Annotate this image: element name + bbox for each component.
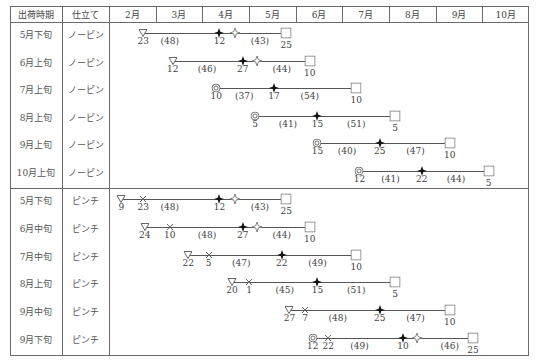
days-interval-label: (47) bbox=[232, 258, 250, 268]
days-interval-label: (48) bbox=[160, 36, 178, 46]
date-label: 22 bbox=[276, 258, 287, 268]
header-month: 6月 bbox=[296, 7, 343, 23]
days-interval-label: (44) bbox=[272, 230, 290, 240]
days-interval-label: (40) bbox=[338, 146, 356, 156]
date-label: 25 bbox=[467, 345, 478, 355]
date-label: 25 bbox=[281, 206, 292, 216]
date-label: 1 bbox=[246, 285, 252, 295]
shipping-period: 10月上旬 bbox=[10, 166, 62, 179]
date-label: 10 bbox=[304, 234, 315, 244]
date-label: 7 bbox=[302, 313, 308, 323]
date-label: 27 bbox=[237, 230, 248, 240]
date-label: 5 bbox=[486, 178, 492, 188]
date-label: 10 bbox=[351, 95, 362, 105]
date-label: 10 bbox=[351, 262, 362, 272]
col-divider bbox=[109, 6, 110, 356]
date-label: 10 bbox=[164, 230, 175, 240]
date-label: 24 bbox=[139, 230, 150, 240]
date-label: 25 bbox=[374, 313, 385, 323]
training-type: ピンチ bbox=[62, 277, 109, 290]
training-type: ピンチ bbox=[62, 333, 109, 346]
shipping-square-icon bbox=[304, 221, 315, 232]
training-type: ノーピン bbox=[62, 83, 109, 96]
days-interval-label: (43) bbox=[251, 36, 269, 46]
days-interval-label: (41) bbox=[279, 119, 297, 129]
training-type: ノーピン bbox=[62, 138, 109, 151]
days-interval-label: (51) bbox=[347, 119, 365, 129]
date-label: 15 bbox=[312, 119, 323, 129]
days-interval-label: (37) bbox=[235, 91, 253, 101]
header-month: 8月 bbox=[389, 7, 436, 23]
shipping-period: 5月下旬 bbox=[10, 28, 62, 41]
timeline-bar bbox=[188, 255, 356, 256]
date-label: 22 bbox=[183, 258, 194, 268]
training-type: ノーピン bbox=[62, 111, 109, 124]
timeline-bar bbox=[289, 310, 449, 311]
header-month: 7月 bbox=[342, 7, 389, 23]
header-month: 2月 bbox=[109, 7, 156, 23]
days-interval-label: (45) bbox=[276, 285, 294, 295]
bloom-open-flower-icon bbox=[252, 222, 262, 232]
shipping-square-icon bbox=[351, 83, 362, 94]
shipping-period: 6月中旬 bbox=[10, 222, 62, 235]
shipping-period: 8月上旬 bbox=[10, 277, 62, 290]
days-interval-label: (46) bbox=[198, 64, 216, 74]
header-month: 3月 bbox=[156, 7, 203, 23]
date-label: 23 bbox=[137, 202, 148, 212]
training-type: ピンチ bbox=[62, 305, 109, 318]
shipping-square-icon bbox=[444, 138, 455, 149]
training-type: ノーピン bbox=[62, 56, 109, 69]
date-label: 22 bbox=[416, 174, 427, 184]
timeline-bar bbox=[255, 116, 395, 117]
bloom-open-flower-icon bbox=[230, 28, 240, 38]
days-interval-label: (49) bbox=[308, 258, 326, 268]
date-label: 10 bbox=[397, 341, 408, 351]
date-label: 12 bbox=[167, 64, 178, 74]
shipping-square-icon bbox=[351, 249, 362, 260]
timeline-bar bbox=[216, 88, 356, 89]
date-label: 10 bbox=[304, 68, 315, 78]
days-interval-label: (48) bbox=[198, 230, 216, 240]
bloom-open-flower-icon bbox=[412, 333, 422, 343]
shipping-period: 9月中旬 bbox=[10, 305, 62, 318]
shipping-square-icon bbox=[304, 55, 315, 66]
days-interval-label: (44) bbox=[272, 64, 290, 74]
training-type: ノーピン bbox=[62, 28, 109, 41]
bloom-open-flower-icon bbox=[252, 56, 262, 66]
shipping-period: 6月上旬 bbox=[10, 56, 62, 69]
date-label: 5 bbox=[206, 258, 212, 268]
training-type: ピンチ bbox=[62, 250, 109, 263]
shipping-square-icon bbox=[281, 194, 292, 205]
header-period: 出荷時期 bbox=[10, 7, 62, 23]
header-month: 9月 bbox=[436, 7, 483, 23]
timeline-bar bbox=[313, 338, 473, 339]
date-label: 25 bbox=[374, 146, 385, 156]
date-label: 12 bbox=[354, 174, 365, 184]
training-type: ピンチ bbox=[62, 222, 109, 235]
days-interval-label: (47) bbox=[406, 146, 424, 156]
shipping-square-icon bbox=[468, 333, 479, 344]
date-label: 10 bbox=[444, 150, 455, 160]
header-month: 10月 bbox=[482, 7, 529, 23]
date-label: 22 bbox=[323, 341, 334, 351]
header-type: 仕立て bbox=[62, 7, 109, 23]
date-label: 15 bbox=[312, 285, 323, 295]
shipping-period: 7月上旬 bbox=[10, 83, 62, 96]
shipping-period: 5月下旬 bbox=[10, 194, 62, 207]
date-label: 5 bbox=[252, 119, 258, 129]
date-label: 20 bbox=[226, 285, 237, 295]
date-label: 10 bbox=[444, 317, 455, 327]
date-label: 12 bbox=[214, 202, 225, 212]
header-month: 5月 bbox=[249, 7, 296, 23]
date-label: 12 bbox=[307, 341, 318, 351]
days-interval-label: (41) bbox=[381, 174, 399, 184]
date-label: 5 bbox=[392, 289, 398, 299]
date-label: 23 bbox=[137, 36, 148, 46]
shipping-period: 7月中旬 bbox=[10, 250, 62, 263]
days-interval-label: (47) bbox=[406, 313, 424, 323]
date-label: 10 bbox=[211, 91, 222, 101]
bloom-open-flower-icon bbox=[230, 194, 240, 204]
days-interval-label: (48) bbox=[328, 313, 346, 323]
date-label: 27 bbox=[284, 313, 295, 323]
shipping-square-icon bbox=[281, 28, 292, 39]
